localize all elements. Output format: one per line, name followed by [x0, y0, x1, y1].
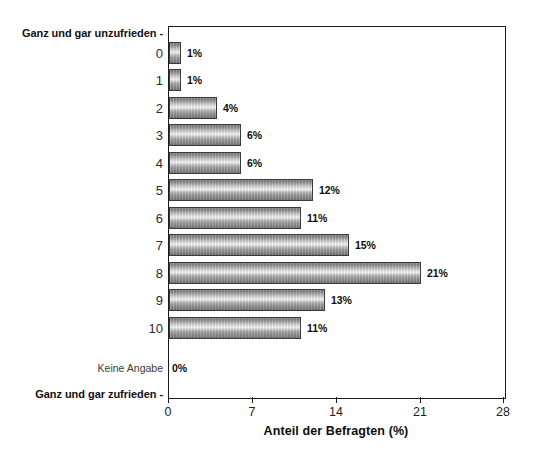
bar-row-11: 0% — [169, 354, 505, 382]
bar-row-1: 1% — [169, 67, 505, 95]
bar-value-5: 12% — [319, 184, 340, 196]
bar-3 — [169, 124, 241, 146]
x-tick-mark-14 — [336, 397, 337, 403]
bar-10 — [169, 317, 301, 339]
bar-9 — [169, 289, 325, 311]
y-axis-tick-label-4: 4 — [3, 155, 163, 170]
bar-4 — [169, 152, 241, 174]
bar-value-3: 6% — [247, 129, 262, 141]
bar-8 — [169, 262, 421, 284]
bar-value-6: 11% — [307, 212, 327, 224]
bar-2 — [169, 97, 217, 119]
x-tick-label-28: 28 — [496, 405, 510, 419]
bar-row-5: 12% — [169, 177, 505, 205]
bar-value-1: 1% — [187, 74, 202, 86]
bar-row-10: 11% — [169, 314, 505, 342]
x-tick-label-21: 21 — [413, 405, 427, 419]
bars-container: 1% 1% 4% 6% 6% 12% 11% 15% 21% 13% 11% 0… — [169, 26, 505, 397]
x-tick-label-0: 0 — [165, 405, 172, 419]
bar-row-0: 1% — [169, 39, 505, 67]
x-tick-mark-0 — [168, 397, 169, 403]
bar-value-10: 11% — [307, 322, 327, 334]
bar-1 — [169, 69, 181, 91]
x-tick-label-14: 14 — [329, 405, 343, 419]
bar-value-7: 15% — [355, 239, 376, 251]
bar-row-4: 6% — [169, 149, 505, 177]
y-axis-scale-bottom-label: Ganz und gar zufrieden - — [3, 388, 163, 400]
bar-value-4: 6% — [247, 157, 262, 169]
bar-7 — [169, 234, 349, 256]
y-axis-tick-label-1: 1 — [3, 73, 163, 88]
x-tick-mark-7 — [252, 397, 253, 403]
bar-row-6: 11% — [169, 204, 505, 232]
y-axis-tick-label-9: 9 — [3, 293, 163, 308]
bar-value-0: 1% — [187, 47, 202, 59]
x-tick-label-7: 7 — [249, 405, 256, 419]
bar-value-11: 0% — [172, 362, 187, 374]
y-axis-tick-label-keine-angabe: Keine Angabe — [3, 362, 163, 374]
y-axis-tick-label-2: 2 — [3, 100, 163, 115]
y-axis-scale-top-label: Ganz und gar unzufrieden - — [3, 27, 163, 39]
bar-row-3: 6% — [169, 122, 505, 150]
bar-value-2: 4% — [223, 102, 238, 114]
bar-row-9: 13% — [169, 287, 505, 315]
y-axis-tick-label-3: 3 — [3, 128, 163, 143]
bar-row-2: 4% — [169, 94, 505, 122]
x-tick-mark-28 — [503, 397, 504, 403]
x-tick-mark-21 — [420, 397, 421, 403]
y-axis-tick-label-0: 0 — [3, 45, 163, 60]
y-axis-labels: Ganz und gar unzufrieden - 0 1 2 3 4 5 6… — [0, 0, 163, 457]
x-axis-title: Anteil der Befragten (%) — [168, 424, 504, 438]
chart-figure: Ganz und gar unzufrieden - 0 1 2 3 4 5 6… — [0, 0, 537, 457]
bar-0 — [169, 42, 181, 64]
bar-row-8: 21% — [169, 259, 505, 287]
y-axis-tick-label-6: 6 — [3, 210, 163, 225]
y-axis-tick-label-8: 8 — [3, 265, 163, 280]
bar-value-9: 13% — [331, 294, 352, 306]
bar-value-8: 21% — [427, 267, 448, 279]
bar-row-7: 15% — [169, 232, 505, 260]
y-axis-tick-label-5: 5 — [3, 183, 163, 198]
bar-5 — [169, 179, 313, 201]
y-axis-tick-label-7: 7 — [3, 238, 163, 253]
y-axis-tick-label-10: 10 — [3, 320, 163, 335]
bar-6 — [169, 207, 301, 229]
